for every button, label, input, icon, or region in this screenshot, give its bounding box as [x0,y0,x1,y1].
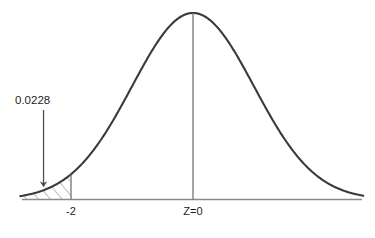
normal-distribution-chart: 0.0228 -2 Z=0 [0,0,375,238]
x-tick-label-z-zero: Z=0 [183,205,202,217]
tail-probability-label: 0.0228 [15,94,50,106]
bell-curve-path [20,13,363,196]
chart-canvas: 0.0228 -2 Z=0 [0,0,375,238]
x-tick-label-minus-2: -2 [66,205,76,217]
